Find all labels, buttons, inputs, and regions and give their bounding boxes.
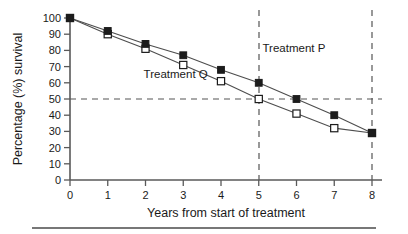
data-point-marker	[217, 78, 224, 85]
treatment-p-line	[70, 18, 372, 133]
survival-curve-figure: 100 90 80 70 60 50 40 30 20 10 0 0 1 2 3…	[0, 0, 408, 234]
data-point-marker	[293, 96, 300, 103]
y-tick-label-90: 90	[49, 28, 61, 40]
x-tick-label-0: 0	[67, 189, 73, 201]
x-tick-labels: 0 1 2 3 4 5 6 7 8	[67, 189, 375, 201]
x-tick-label-8: 8	[369, 189, 375, 201]
data-point-marker	[218, 66, 225, 73]
x-tick-label-3: 3	[180, 189, 186, 201]
x-tick-label-2: 2	[142, 189, 148, 201]
data-point-marker	[331, 112, 338, 119]
data-point-marker	[369, 130, 376, 137]
y-tick-label-70: 70	[49, 61, 61, 73]
treatment-q-line	[70, 18, 372, 133]
y-tick-marks	[64, 18, 70, 180]
x-tick-label-1: 1	[105, 189, 111, 201]
data-point-marker	[67, 15, 74, 22]
y-tick-label-100: 100	[43, 12, 61, 24]
data-point-marker	[180, 52, 187, 59]
y-tick-label-0: 0	[55, 174, 61, 186]
y-tick-labels: 100 90 80 70 60 50 40 30 20 10 0	[43, 12, 61, 186]
chart-canvas: 100 90 80 70 60 50 40 30 20 10 0 0 1 2 3…	[0, 0, 408, 234]
y-tick-label-10: 10	[49, 158, 61, 170]
y-tick-label-30: 30	[49, 125, 61, 137]
x-tick-label-5: 5	[256, 189, 262, 201]
y-tick-label-60: 60	[49, 77, 61, 89]
data-point-marker	[293, 110, 300, 117]
data-point-marker	[331, 125, 338, 132]
y-tick-label-40: 40	[49, 109, 61, 121]
x-axis-title: Years from start of treatment	[147, 206, 305, 220]
treatment-p-label: Treatment P	[263, 42, 326, 54]
data-point-marker	[255, 95, 262, 102]
y-tick-label-50: 50	[49, 93, 61, 105]
data-point-marker	[142, 41, 149, 48]
x-tick-label-7: 7	[331, 189, 337, 201]
x-tick-label-6: 6	[293, 189, 299, 201]
treatment-q-label: Treatment Q	[144, 68, 208, 80]
data-point-marker	[104, 28, 111, 35]
series-lines	[70, 18, 372, 133]
x-tick-marks	[70, 180, 372, 186]
data-point-marker	[255, 79, 262, 86]
y-tick-label-20: 20	[49, 142, 61, 154]
x-tick-label-4: 4	[218, 189, 224, 201]
y-tick-label-80: 80	[49, 44, 61, 56]
y-axis-title: Percentage (%) survival	[11, 33, 25, 166]
reference-lines	[70, 10, 382, 180]
